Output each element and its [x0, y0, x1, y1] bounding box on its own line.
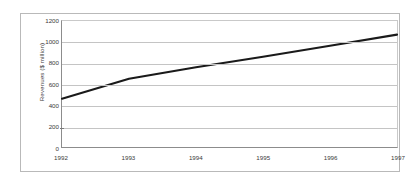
x-axis-tick-label: 1995 [256, 154, 270, 162]
y-axis-tick-label: 1200 [33, 17, 59, 24]
x-axis-tick-label: 1993 [122, 154, 136, 162]
y-axis-tick-label: 0 [33, 145, 59, 152]
x-axis-tick-label: 1994 [189, 154, 203, 162]
y-axis-tick-label: 1000 [33, 38, 59, 45]
gridline [62, 128, 397, 129]
x-axis-tick-labels: 199219931994199519961997 [61, 154, 398, 166]
y-axis-tick-label: 400 [33, 102, 59, 109]
x-axis-tick-label: 1997 [391, 154, 405, 162]
plot-area [61, 20, 398, 148]
chart-figure-frame: Revenues ($ million) 0200400600800100012… [20, 13, 400, 172]
gridline [62, 106, 397, 107]
x-axis-tick-label: 1996 [324, 154, 338, 162]
y-axis-tick-label: 600 [33, 81, 59, 88]
gridline [62, 64, 397, 65]
y-axis-tick-label: 200 [33, 123, 59, 130]
y-axis-tick-mark [60, 128, 64, 129]
gridline [62, 85, 397, 86]
y-axis-tick-label: 800 [33, 59, 59, 66]
y-axis-tick-labels: 020040060080010001200 [33, 14, 59, 173]
gridline [62, 42, 397, 43]
x-axis-tick-label: 1992 [54, 154, 68, 162]
